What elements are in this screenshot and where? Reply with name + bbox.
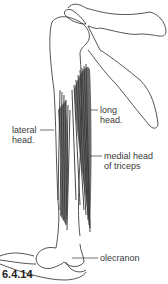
humerus-shaft-left [50, 22, 59, 248]
ulna-line [0, 260, 36, 264]
figure-number: 6.4.14 [2, 268, 33, 280]
humerus-head [52, 17, 89, 54]
label-lateral-head: lateral head. [12, 125, 37, 145]
forearm-upper [0, 253, 34, 256]
triceps-anatomy-diagram: long head. lateral head. medial head of … [0, 0, 168, 284]
elbow-joint [36, 244, 84, 269]
label-olecranon: olecranon [100, 253, 140, 263]
label-long-head: long head. [100, 105, 123, 125]
label-medial-head: medial head of triceps [104, 151, 153, 171]
